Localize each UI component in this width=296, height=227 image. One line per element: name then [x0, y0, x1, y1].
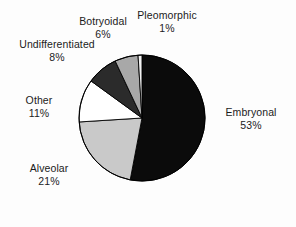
- slice-label-alveolar: Alveolar 21%: [20, 162, 78, 187]
- slice-label-botryoidal-name: Botryoidal: [72, 15, 134, 28]
- slice-label-alveolar-name: Alveolar: [20, 162, 78, 175]
- slice-label-pleomorphic: Pleomorphic 1%: [128, 9, 206, 34]
- slice-label-undifferentiated-name: Undifferentiated: [8, 38, 106, 51]
- slice-label-alveolar-value: 21%: [20, 175, 78, 188]
- slice-label-embryonal-value: 53%: [215, 119, 287, 132]
- pie-slice-group: [79, 55, 205, 181]
- slice-label-undifferentiated: Undifferentiated 8%: [8, 38, 106, 63]
- slice-label-pleomorphic-value: 1%: [128, 22, 206, 35]
- slice-label-pleomorphic-name: Pleomorphic: [128, 9, 206, 22]
- pie-chart-figure: Pleomorphic 1% Botryoidal 6% Undifferent…: [0, 0, 296, 227]
- slice-label-embryonal-name: Embryonal: [215, 106, 287, 119]
- slice-label-botryoidal: Botryoidal 6%: [72, 15, 134, 40]
- slice-label-other: Other 11%: [14, 94, 64, 119]
- slice-label-other-name: Other: [14, 94, 64, 107]
- slice-label-undifferentiated-value: 8%: [8, 51, 106, 64]
- slice-label-embryonal: Embryonal 53%: [215, 106, 287, 131]
- slice-label-other-value: 11%: [14, 107, 64, 120]
